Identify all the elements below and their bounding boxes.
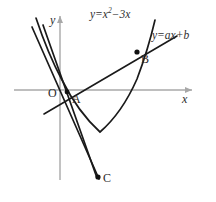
y-axis-label: y: [50, 14, 55, 26]
point-b-label: B: [141, 53, 149, 65]
point-a-label: A: [72, 93, 81, 105]
x-axis-label: x: [182, 93, 187, 105]
point-c-label: C: [103, 172, 111, 184]
chord-to-c-right: [43, 25, 97, 178]
origin-label: O: [48, 87, 57, 99]
y-axis-arrow: [57, 16, 63, 23]
line-equation-label: y=ax+b: [152, 30, 189, 42]
point-a-marker: [65, 90, 70, 95]
point-c-marker: [95, 174, 100, 179]
figure-container: y=x2−3x y=ax+b O A B C x y: [0, 0, 216, 202]
x-axis: [14, 87, 192, 93]
point-b-marker: [134, 49, 139, 54]
parabola-equation-suffix: −3x: [112, 8, 131, 20]
parabola-equation-label: y=x2−3x: [90, 9, 130, 21]
y-axis: [57, 16, 63, 180]
line-ax-plus-b: [44, 36, 177, 114]
parabola-equation-prefix: y=x: [90, 8, 108, 20]
